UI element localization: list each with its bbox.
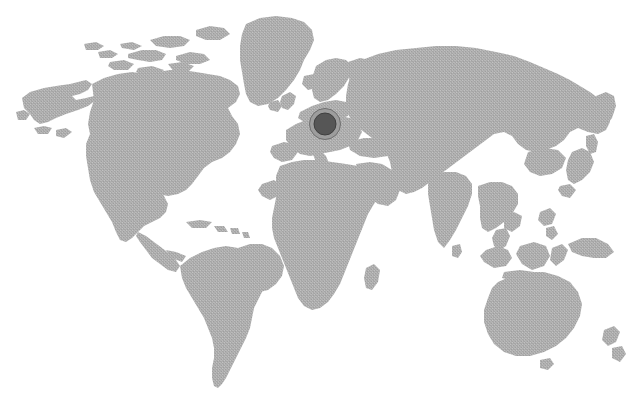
world-map	[0, 0, 632, 398]
location-marker[interactable]	[314, 113, 337, 136]
world-map-canvas	[0, 0, 632, 398]
